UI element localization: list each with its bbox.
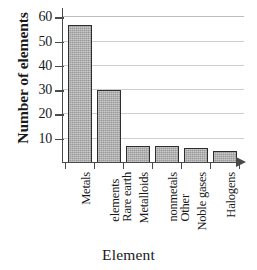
x-axis-tick <box>210 162 211 169</box>
x-axis-line <box>62 162 238 163</box>
bar <box>68 25 92 163</box>
y-axis-tick-label: 50 <box>26 35 52 49</box>
y-axis-line <box>62 8 63 163</box>
bar <box>126 146 150 163</box>
x-axis-tick <box>94 162 95 169</box>
x-axis-tick <box>123 162 124 169</box>
bar <box>97 90 121 163</box>
x-axis-category-label-line: Halogens <box>225 172 237 218</box>
x-axis-tick <box>239 162 240 169</box>
y-axis-tick-label: 40 <box>26 59 52 73</box>
bar <box>155 146 179 163</box>
y-axis-tick-label: 20 <box>26 107 52 121</box>
bar-chart: Number of elements 102030405060 MetalsRa… <box>0 0 257 270</box>
y-axis-tick-label: 30 <box>26 83 52 97</box>
x-axis-category-label-line: Metalloids <box>138 172 150 223</box>
x-axis-tick <box>65 162 66 169</box>
gridline <box>62 16 244 17</box>
plot-area <box>62 10 255 163</box>
x-axis-category-label: Halogens <box>213 172 237 244</box>
x-axis-category-label-line: Noble gases <box>196 172 208 231</box>
x-axis-category-label: Othernonmetals <box>155 172 179 244</box>
y-axis-tick-label: 60 <box>26 10 52 24</box>
x-axis-category-label: Metalloids <box>126 172 150 244</box>
x-axis-category-label-line: Metals <box>80 172 92 205</box>
bar <box>184 148 208 163</box>
x-axis-category-label: Rare earthelements <box>97 172 121 244</box>
x-axis-category-label: Metals <box>68 172 92 244</box>
y-axis-tick-label: 10 <box>26 132 52 146</box>
x-axis-tick <box>181 162 182 169</box>
x-axis-category-label: Noble gases <box>184 172 208 244</box>
x-axis-title: Element <box>0 246 257 264</box>
arrow-right-icon <box>236 157 246 167</box>
x-axis-tick <box>152 162 153 169</box>
